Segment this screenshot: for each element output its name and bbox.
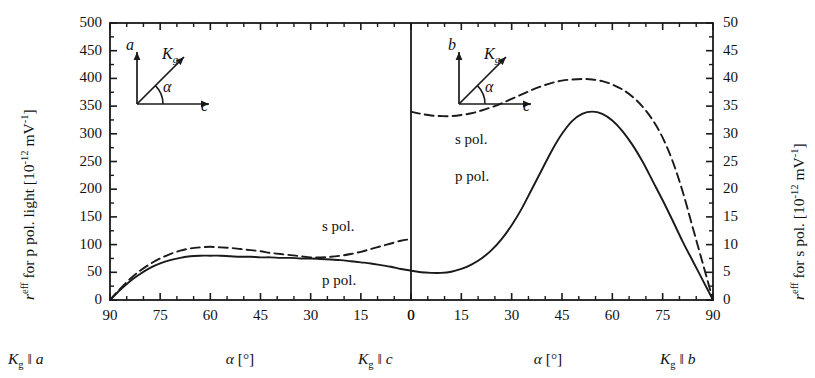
inset-right-angle-label-alpha: α: [485, 78, 493, 96]
x-tick-label-left-panel: 90: [103, 308, 118, 323]
inset-left-angle-label-alpha: α: [163, 78, 171, 96]
y-tick-label-left: 100: [44, 237, 102, 252]
x-tick-label-left-panel: 30: [303, 308, 318, 323]
y-tick-label-right: 5: [723, 264, 763, 279]
x-axis-right-title: α [°]: [534, 350, 563, 368]
y-tick-label-left: 300: [44, 126, 102, 141]
x-tick-label-right-panel: 60: [605, 308, 620, 323]
inset-right-axis-label-c: c: [523, 97, 530, 115]
plot-frame: [110, 23, 713, 300]
inset-right-vector-label-kg: Kg: [484, 45, 500, 63]
x-tick-label-left-panel: 15: [353, 308, 368, 323]
curve-label-left-p-pol: p pol.: [322, 272, 356, 289]
corner-label-kg-parallel-b: Kg ‖ b: [660, 350, 695, 368]
curve-label-right-s-pol: s pol.: [455, 131, 488, 148]
inset-diagrams: [134, 52, 531, 107]
x-tick-label-right-panel: 0: [407, 308, 415, 323]
inset-left-axis-label-c: c: [201, 97, 208, 115]
y-tick-label-left: 50: [44, 264, 102, 279]
curve-label-left-s-pol: s pol.: [322, 218, 355, 235]
inset-right-axis-label-b: b: [448, 36, 456, 54]
figure-root: 050100150200250300350400450500 051015202…: [0, 0, 815, 378]
x-tick-label-right-panel: 15: [454, 308, 469, 323]
y-tick-label-left: 350: [44, 98, 102, 113]
y-tick-label-left: 400: [44, 70, 102, 85]
y-tick-label-left: 150: [44, 209, 102, 224]
y-tick-label-left: 200: [44, 181, 102, 196]
y-tick-label-right: 0: [723, 292, 763, 307]
y-tick-label-right: 45: [723, 43, 763, 58]
x-tick-label-right-panel: 75: [655, 308, 670, 323]
y-axis-left-title: reff for p pol. light [10-12 mV-1]: [20, 109, 38, 300]
corner-label-kg-parallel-c: Kg ‖ c: [358, 350, 393, 368]
y-tick-label-right: 10: [723, 237, 763, 252]
x-tick-label-right-panel: 30: [504, 308, 519, 323]
y-tick-label-left: 500: [44, 15, 102, 30]
y-tick-label-right: 50: [723, 15, 763, 30]
y-tick-label-right: 30: [723, 126, 763, 141]
y-tick-label-right: 20: [723, 181, 763, 196]
x-tick-label-right-panel: 45: [555, 308, 570, 323]
y-tick-label-right: 35: [723, 98, 763, 113]
curve-left-panel-spol: [110, 239, 411, 300]
y-tick-label-right: 25: [723, 154, 763, 169]
x-tick-label-left-panel: 45: [253, 308, 268, 323]
y-tick-label-left: 0: [44, 292, 102, 307]
x-tick-label-right-panel: 90: [706, 308, 721, 323]
y-tick-label-right: 15: [723, 209, 763, 224]
y-tick-label-left: 450: [44, 43, 102, 58]
curve-label-right-p-pol: p pol.: [455, 168, 489, 185]
inset-left-axis-label-a: a: [126, 36, 134, 54]
curve-right-panel-spol: [411, 79, 713, 300]
x-tick-label-left-panel: 75: [153, 308, 168, 323]
y-axis-right-title: reff for s pol. [10-12 mV-1]: [790, 143, 808, 300]
x-axis-left-title: α [°]: [226, 350, 255, 368]
inset-left-vector-label-kg: Kg: [162, 45, 178, 63]
y-tick-label-right: 40: [723, 70, 763, 85]
x-tick-label-left-panel: 60: [203, 308, 218, 323]
y-tick-label-left: 250: [44, 154, 102, 169]
corner-label-kg-parallel-a: Kg ‖ a: [8, 350, 43, 368]
